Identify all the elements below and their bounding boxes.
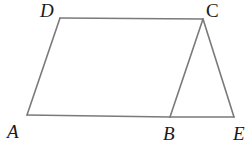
label-c: C (206, 0, 219, 21)
geometry-diagram: A B C D E (0, 0, 250, 144)
segment-ad (27, 18, 60, 115)
label-d: D (39, 0, 54, 21)
segment-dc (60, 18, 203, 19)
label-b: B (163, 123, 175, 144)
label-e: E (232, 123, 245, 144)
segment-ab (27, 115, 170, 117)
segment-cb (170, 19, 203, 117)
segment-ce (203, 19, 234, 117)
label-a: A (5, 121, 19, 142)
segments (27, 18, 234, 117)
